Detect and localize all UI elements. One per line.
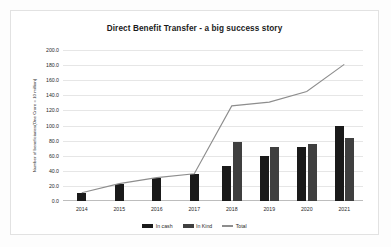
bar-in-kind [270, 147, 279, 201]
bar-in-cash [190, 174, 199, 201]
legend-swatch-line-icon [222, 225, 233, 226]
y-axis-tick-label: 20.0 [49, 183, 59, 189]
bar-group: 2016 [138, 50, 176, 201]
legend-label: In Kind [196, 223, 212, 229]
bar-group: 2018 [213, 50, 251, 201]
y-axis-tick-label: 160.0 [46, 77, 59, 83]
bar-in-kind [308, 144, 317, 201]
legend-swatch-kind-icon [183, 224, 194, 228]
bar-in-kind [233, 142, 242, 201]
y-axis-tick-label: 60.0 [49, 153, 59, 159]
x-axis-tick-label: 2021 [338, 206, 350, 212]
x-axis-tick-label: 2018 [226, 206, 238, 212]
plot-area: 0.020.040.060.080.0100.0120.0140.0160.01… [63, 50, 363, 201]
y-axis-tick-label: 200.0 [46, 47, 59, 53]
y-axis-tick-label: 0.0 [52, 198, 59, 204]
bar-in-cash [77, 193, 86, 201]
y-axis-tick-label: 40.0 [49, 168, 59, 174]
legend-item[interactable]: In Kind [183, 223, 213, 229]
bar-in-cash [222, 166, 231, 201]
bar-in-cash [335, 126, 344, 201]
legend-swatch-cash-icon [142, 224, 153, 228]
chart-legend: In cashIn KindTotal [11, 223, 378, 229]
bar-in-cash [115, 184, 124, 201]
bar-group: 2014 [63, 50, 101, 201]
x-axis-tick-label: 2017 [188, 206, 200, 212]
x-axis-tick-label: 2015 [113, 206, 125, 212]
legend-item[interactable]: Total [222, 223, 246, 229]
chart-title: Direct Benefit Transfer - a big success … [11, 24, 378, 33]
bar-in-cash [260, 156, 269, 201]
y-axis-tick-label: 140.0 [46, 92, 59, 98]
legend-label: Total [236, 223, 247, 229]
bar-group: 2015 [101, 50, 139, 201]
y-axis-tick-label: 80.0 [49, 138, 59, 144]
bar-in-cash [152, 178, 161, 201]
x-axis-tick-label: 2019 [263, 206, 275, 212]
legend-item[interactable]: In cash [142, 223, 172, 229]
bar-group: 2017 [176, 50, 214, 201]
x-axis-tick-label: 2014 [76, 206, 88, 212]
y-axis-tick-label: 180.0 [46, 62, 59, 68]
legend-label: In cash [156, 223, 173, 229]
x-axis-tick-label: 2016 [151, 206, 163, 212]
bar-group: 2021 [326, 50, 364, 201]
y-axis-tick-label: 120.0 [46, 107, 59, 113]
y-axis-tick-label: 100.0 [46, 123, 59, 129]
chart-frame: Direct Benefit Transfer - a big success … [10, 10, 379, 235]
bar-group: 2020 [288, 50, 326, 201]
bar-in-kind [345, 138, 354, 201]
bar-group: 2019 [251, 50, 289, 201]
x-axis-tick-label: 2020 [301, 206, 313, 212]
bar-in-cash [297, 147, 306, 201]
y-axis-title: Number of beneficiaries(One Crore = 10 m… [29, 50, 39, 201]
